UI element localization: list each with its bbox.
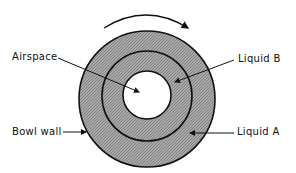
liquid-b-label: Liquid B [238, 53, 281, 64]
bowl-wall-label: Bowl wall [12, 126, 62, 137]
liquid-a-label: Liquid A [237, 126, 280, 137]
airspace-core [123, 71, 171, 119]
rotation-arrow-icon [104, 15, 188, 28]
centrifuge-bowl-diagram [0, 0, 296, 173]
airspace-label: Airspace [12, 51, 57, 62]
